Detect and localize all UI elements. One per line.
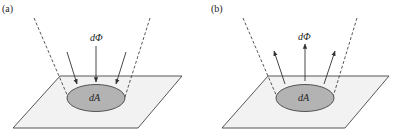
panel-a: (a) dA dΦ [2, 3, 182, 128]
flux-label-b: dΦ [298, 31, 311, 42]
area-label-b: dA [298, 92, 310, 103]
panel-b: (b) dA dΦ [211, 3, 389, 128]
panel-b-label: (b) [211, 3, 223, 15]
panel-a-label: (a) [2, 3, 13, 15]
flux-label-a: dΦ [90, 32, 103, 43]
flux-diagram: (a) dA dΦ (b) dA dΦ [0, 0, 403, 137]
area-label-a: dA [89, 92, 101, 103]
